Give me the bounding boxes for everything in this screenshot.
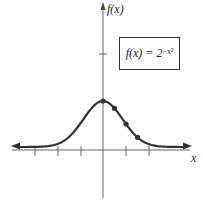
- curve-left-arrow-icon: [11, 143, 20, 150]
- data-point: [135, 135, 140, 140]
- legend-exponent: −x²: [162, 47, 173, 56]
- data-point: [112, 106, 117, 111]
- curve-right-arrow-icon: [183, 143, 192, 150]
- y-axis-arrow-icon: [101, 2, 106, 10]
- function-graph: [0, 0, 203, 203]
- data-point: [100, 98, 105, 103]
- x-axis-label: x: [191, 151, 196, 166]
- x-ticks: [35, 146, 149, 156]
- legend-formula: f(x) = 2: [126, 46, 163, 61]
- function-legend: f(x) = 2−x²: [119, 37, 180, 70]
- y-axis-label: f(x): [107, 2, 124, 17]
- curve-line: [18, 101, 185, 147]
- data-point: [123, 121, 128, 126]
